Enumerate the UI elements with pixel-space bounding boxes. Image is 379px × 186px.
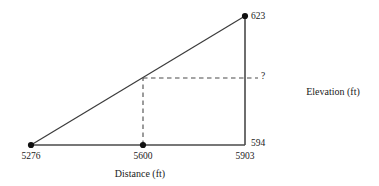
label-distance-start: 5276 bbox=[22, 152, 41, 162]
point-marker-top bbox=[242, 13, 248, 19]
interpolation-diagram: 623 594 ? 5276 5600 5903 Distance (ft) E… bbox=[0, 0, 379, 186]
label-bottom-elevation: 594 bbox=[251, 139, 265, 149]
label-unknown-elevation: ? bbox=[261, 72, 265, 82]
label-distance-mid: 5600 bbox=[134, 152, 153, 162]
label-top-elevation: 623 bbox=[251, 12, 265, 22]
label-distance-end: 5903 bbox=[236, 152, 255, 162]
point-marker-mid bbox=[140, 142, 146, 148]
point-marker-start bbox=[28, 142, 34, 148]
x-axis-title: Distance (ft) bbox=[115, 169, 165, 179]
y-axis-title: Elevation (ft) bbox=[306, 87, 360, 97]
slope-line bbox=[31, 16, 245, 145]
